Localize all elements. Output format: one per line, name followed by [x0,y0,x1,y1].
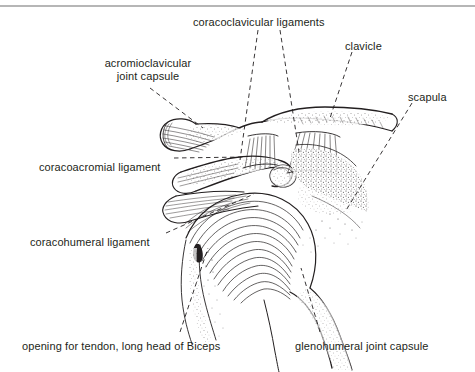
label-opening-for-tendon-long-head-of-biceps: opening for tendon, long head of Biceps [22,340,220,353]
anatomy-drawing [160,107,397,372]
label-coracoclavicular-ligaments: coracoclavicular ligaments [193,16,325,29]
label-glenohumeral-joint-capsule: glenohumeral joint capsule [295,340,428,353]
shoulder-ligaments-figure [0,0,475,372]
label-coracohumeral-ligament-line-1: coracohumeral ligament [30,236,150,249]
label-coracoclavicular-ligaments-line-1: coracoclavicular ligaments [193,16,325,29]
coracoid-process-bone [172,156,296,193]
acromion-bone [160,119,262,152]
label-coracohumeral-ligament: coracohumeral ligament [30,236,150,249]
label-acromioclavicular-joint-capsule-line-1: acromioclavicular [88,57,208,70]
glenohumeral-capsule-ribbing [185,193,316,303]
label-acromioclavicular-joint-capsule-line-2: joint capsule [88,70,208,83]
humerus-shaft [264,288,352,372]
label-glenohumeral-joint-capsule-line-1: glenohumeral joint capsule [295,340,428,353]
label-coracoacromial-ligament: coracoacromial ligament [39,161,161,174]
leader-coracoclavicular-left [240,30,258,160]
label-clavicle-line-1: clavicle [345,40,382,53]
leader-acromioclavicular [150,88,203,128]
scapula-body-shading [291,144,368,252]
label-scapula: scapula [408,91,447,104]
label-opening-for-tendon-long-head-of-biceps-line-1: opening for tendon, long head of Biceps [22,340,220,353]
label-scapula-line-1: scapula [408,91,447,104]
biceps-tendon-opening [181,240,216,344]
label-acromioclavicular-joint-capsule: acromioclavicular joint capsule [88,57,208,83]
clavicle-bone [262,107,397,131]
leader-coracoclavicular-right [280,30,299,152]
label-clavicle: clavicle [345,40,382,53]
label-coracoacromial-ligament-line-1: coracoacromial ligament [39,161,161,174]
